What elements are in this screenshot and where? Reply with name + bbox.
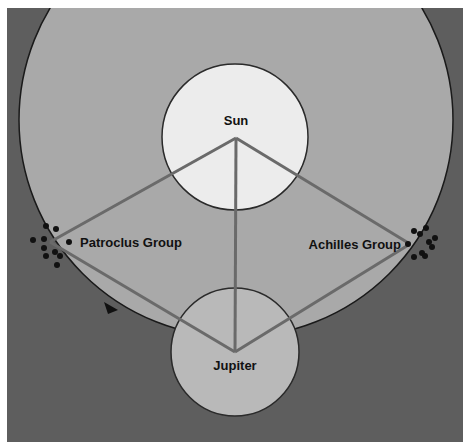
patroclus-group-label: Patroclus Group [80,235,182,250]
achilles-group-label: Achilles Group [309,237,402,252]
jupiter-label: Jupiter [213,358,256,373]
sun-label: Sun [224,113,249,128]
trojan-asteroids-diagram: Sun Jupiter Patroclus Group Achilles Gro… [0,0,471,442]
